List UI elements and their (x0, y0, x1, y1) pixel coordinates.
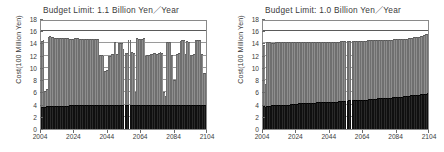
y-tick-mark (40, 80, 43, 81)
x-tick-label: 2104 (192, 133, 222, 140)
x-tick-label: 2044 (92, 133, 122, 140)
y-tick-mark (40, 19, 43, 20)
axis-layer-right: 024681012141618200420242044206420842104 (262, 20, 429, 130)
y-tick-label: 10 (23, 66, 37, 72)
chart-panel-left: Budget Limit: 1.1 Billion Yen／Year Cost(… (0, 0, 222, 152)
y-tick-mark (262, 117, 265, 118)
x-tick-mark (40, 130, 41, 133)
y-tick-mark (40, 68, 43, 69)
y-tick-label: 14 (245, 41, 259, 47)
y-tick-mark (40, 92, 43, 93)
y-tick-mark (262, 19, 265, 20)
x-tick-label: 2064 (347, 133, 377, 140)
x-tick-mark (396, 130, 397, 133)
chart-panel-right: Budget Limit: 1.0 Billion Yen／Year Cost(… (222, 0, 444, 152)
y-tick-label: 16 (23, 29, 37, 35)
x-tick-label: 2104 (414, 133, 444, 140)
x-tick-mark (362, 130, 363, 133)
x-tick-label: 2084 (381, 133, 411, 140)
y-tick-label: 4 (23, 103, 37, 109)
axis-layer-left: 024681012141618200420242044206420842104 (40, 20, 207, 130)
y-tick-mark (262, 43, 265, 44)
y-tick-label: 8 (23, 78, 37, 84)
y-tick-label: 6 (245, 90, 259, 96)
y-tick-label: 4 (245, 103, 259, 109)
x-tick-label: 2004 (247, 133, 277, 140)
y-tick-label: 8 (245, 78, 259, 84)
y-tick-mark (40, 43, 43, 44)
y-tick-label: 10 (245, 66, 259, 72)
x-tick-label: 2064 (125, 133, 155, 140)
x-tick-mark (428, 130, 429, 133)
y-tick-label: 18 (245, 17, 259, 23)
y-tick-label: 18 (23, 17, 37, 23)
x-tick-mark (73, 130, 74, 133)
plot-area-left: 024681012141618200420242044206420842104 (40, 20, 207, 130)
y-tick-mark (262, 80, 265, 81)
y-tick-label: 16 (245, 29, 259, 35)
x-tick-label: 2024 (58, 133, 88, 140)
y-tick-label: 2 (245, 115, 259, 121)
y-tick-mark (40, 105, 43, 106)
x-tick-label: 2084 (159, 133, 189, 140)
chart-title-left: Budget Limit: 1.1 Billion Yen／Year (0, 3, 222, 15)
x-tick-label: 2044 (314, 133, 344, 140)
x-tick-mark (140, 130, 141, 133)
x-tick-label: 2004 (25, 133, 55, 140)
y-axis-label-left: Cost(100 Million Yen) (15, 6, 22, 94)
y-tick-mark (262, 68, 265, 69)
x-tick-label: 2024 (280, 133, 310, 140)
y-tick-label: 2 (23, 115, 37, 121)
y-tick-mark (40, 31, 43, 32)
y-tick-mark (262, 31, 265, 32)
y-tick-mark (262, 56, 265, 57)
x-tick-mark (174, 130, 175, 133)
y-axis-label-right: Cost(100 Million Yen) (237, 6, 244, 94)
plot-area-right: 024681012141618200420242044206420842104 (262, 20, 429, 130)
y-tick-label: 12 (23, 54, 37, 60)
chart-title-right: Budget Limit: 1.0 Billion Yen／Year (222, 3, 444, 15)
y-tick-mark (262, 105, 265, 106)
x-tick-mark (206, 130, 207, 133)
x-tick-mark (262, 130, 263, 133)
dual-bar-chart-figure: Budget Limit: 1.1 Billion Yen／Year Cost(… (0, 0, 444, 152)
x-tick-mark (107, 130, 108, 133)
y-tick-mark (262, 92, 265, 93)
y-tick-label: 14 (23, 41, 37, 47)
x-tick-mark (295, 130, 296, 133)
y-tick-label: 12 (245, 54, 259, 60)
y-tick-label: 6 (23, 90, 37, 96)
y-tick-mark (40, 117, 43, 118)
x-tick-mark (329, 130, 330, 133)
y-tick-mark (40, 56, 43, 57)
